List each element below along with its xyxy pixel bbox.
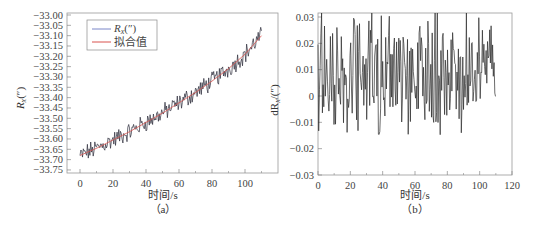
- figure: −33.00−33.05−33.10−33.15−33.20−33.25−33.…: [0, 0, 535, 227]
- x-tick-label: 60: [174, 178, 185, 189]
- chart-b-x-axis: 020406080100120: [315, 171, 520, 191]
- chart-b-caption: （b）: [401, 203, 429, 215]
- y-tick-label: 0: [309, 91, 314, 102]
- chart-a-y-axis: −33.00−33.05−33.10−33.15−33.20−33.25−33.…: [33, 10, 71, 176]
- chart-a-caption: （a）: [150, 203, 177, 215]
- x-tick-label: 80: [442, 180, 453, 191]
- x-tick-label: 20: [108, 178, 119, 189]
- y-tick-label: −0.03: [290, 170, 314, 181]
- chart-b-y-axis: 0.030.020.010−0.01−0.02−0.03: [290, 12, 322, 181]
- x-tick-label: 0: [315, 180, 320, 191]
- legend-label-measured: Rx(″): [113, 22, 137, 36]
- legend-label-fit: 拟合值: [114, 35, 147, 48]
- x-tick-label: 20: [345, 180, 356, 191]
- x-tick-label: 40: [377, 180, 388, 191]
- x-tick-label: 0: [77, 178, 82, 189]
- x-tick-label: 100: [472, 180, 488, 191]
- chart-a-legend: Rx(″) 拟合值: [87, 20, 157, 50]
- y-tick-label: 0.02: [296, 38, 314, 49]
- y-tick-label: 0.03: [296, 12, 314, 23]
- x-tick-label: 80: [207, 178, 218, 189]
- chart-a-y-label: Rx(″): [14, 87, 28, 111]
- chart-a-x-axis: 020406080100: [77, 169, 261, 189]
- chart-a: −33.00−33.05−33.10−33.15−33.20−33.25−33.…: [14, 10, 278, 216]
- x-tick-label: 120: [504, 180, 520, 191]
- y-tick-label: 0.01: [296, 64, 314, 75]
- chart-a-x-label: 时间/s: [148, 189, 177, 201]
- x-tick-label: 100: [237, 178, 253, 189]
- chart-b: 0.030.020.010−0.01−0.02−0.03 02040608010…: [268, 12, 520, 216]
- y-tick-label: −33.75: [33, 164, 63, 175]
- chart-b-y-label: dRx/(″): [268, 84, 282, 116]
- y-tick-label: −0.02: [290, 143, 314, 154]
- y-tick-label: −0.01: [290, 117, 314, 128]
- chart-b-residual-series: [318, 13, 496, 135]
- chart-b-x-label: 时间/s: [400, 189, 429, 201]
- chart-a-fit-series: [80, 36, 262, 156]
- x-tick-label: 40: [141, 178, 152, 189]
